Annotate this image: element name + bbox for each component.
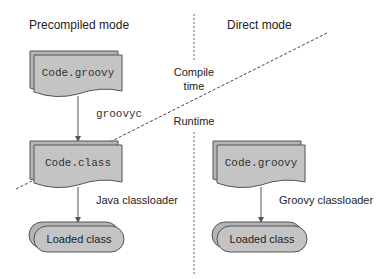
diagram-canvas: Code.groovy groovyc Code.class Java clas… bbox=[0, 0, 387, 279]
source-file-document-precompiled: Code.groovy bbox=[30, 51, 122, 97]
direct-loaded-class-label: Loaded class bbox=[230, 233, 295, 245]
precompiled-mode-title: Precompiled mode bbox=[29, 18, 129, 32]
class-file-document: Code.class bbox=[30, 141, 122, 188]
loaded-class-precompiled: Loaded class bbox=[29, 222, 124, 252]
class-file-label: Code.class bbox=[45, 157, 111, 169]
source-file-label: Code.groovy bbox=[42, 67, 115, 79]
java-classloader-label: Java classloader bbox=[96, 194, 178, 206]
direct-source-file-label: Code.groovy bbox=[225, 157, 298, 169]
direct-mode-title: Direct mode bbox=[227, 18, 292, 32]
groovy-classloader-label: Groovy classloader bbox=[279, 194, 373, 206]
loaded-class-direct: Loaded class bbox=[212, 222, 307, 252]
compiler-label: groovyc bbox=[96, 108, 142, 120]
compile-time-label-line2: time bbox=[184, 80, 205, 92]
runtime-label: Runtime bbox=[174, 115, 215, 127]
compile-time-label-line1: Compile bbox=[174, 66, 214, 78]
source-file-document-direct: Code.groovy bbox=[213, 141, 305, 188]
loaded-class-label: Loaded class bbox=[47, 233, 112, 245]
